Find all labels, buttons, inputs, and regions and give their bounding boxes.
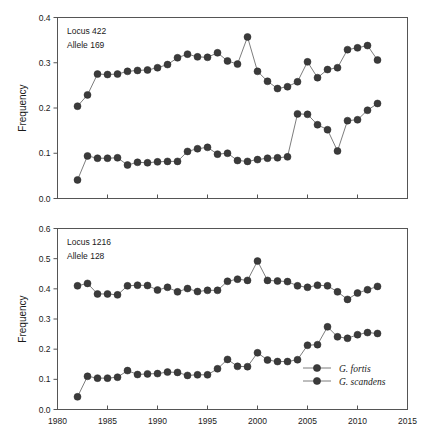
data-point bbox=[174, 54, 181, 61]
data-point bbox=[284, 358, 291, 365]
x-tick-label: 2005 bbox=[298, 416, 317, 426]
series-line bbox=[78, 37, 378, 106]
x-tick-label: 1980 bbox=[48, 416, 67, 426]
data-point bbox=[104, 375, 111, 382]
x-tick-label: 2015 bbox=[398, 416, 417, 426]
y-tick-label: 0.0 bbox=[39, 194, 51, 204]
data-point bbox=[174, 158, 181, 165]
data-point bbox=[184, 51, 191, 58]
legend: G. fortis G. scandens bbox=[303, 364, 386, 387]
data-point bbox=[334, 64, 341, 71]
data-point bbox=[184, 372, 191, 379]
data-point bbox=[74, 393, 81, 400]
data-point bbox=[334, 147, 341, 154]
data-point bbox=[244, 158, 251, 165]
data-point bbox=[254, 156, 261, 163]
top-panel: 0.00.10.20.30.4 Locus 422 Allele 169 Fre… bbox=[17, 13, 408, 204]
data-point bbox=[114, 374, 121, 381]
series-line bbox=[78, 103, 378, 179]
data-point bbox=[84, 152, 91, 159]
data-point bbox=[74, 176, 81, 183]
x-tick-label: 1985 bbox=[98, 416, 117, 426]
data-point bbox=[374, 330, 381, 337]
data-point bbox=[374, 57, 381, 64]
bottom-panel-series-group bbox=[74, 258, 381, 401]
legend-marker-g-scandens bbox=[313, 377, 320, 384]
data-point bbox=[134, 282, 141, 289]
data-point bbox=[294, 356, 301, 363]
x-tick-label: 2000 bbox=[248, 416, 267, 426]
legend-marker-g-fortis bbox=[313, 364, 320, 371]
data-point bbox=[294, 110, 301, 117]
data-point bbox=[294, 282, 301, 289]
data-point bbox=[314, 341, 321, 348]
data-point bbox=[254, 258, 261, 265]
data-point bbox=[344, 117, 351, 124]
y-tick-label: 0.3 bbox=[39, 314, 51, 324]
data-point bbox=[324, 282, 331, 289]
data-point bbox=[224, 356, 231, 363]
data-point bbox=[154, 158, 161, 165]
data-point bbox=[264, 357, 271, 364]
data-point bbox=[204, 371, 211, 378]
data-point bbox=[244, 277, 251, 284]
data-point bbox=[154, 287, 161, 294]
data-point bbox=[144, 370, 151, 377]
series-g-fortis bbox=[74, 258, 381, 303]
top-panel-frame bbox=[58, 18, 408, 199]
data-point bbox=[194, 145, 201, 152]
data-point bbox=[94, 375, 101, 382]
data-point bbox=[214, 287, 221, 294]
data-point bbox=[324, 126, 331, 133]
data-point bbox=[104, 71, 111, 78]
data-point bbox=[164, 158, 171, 165]
data-point bbox=[104, 155, 111, 162]
data-point bbox=[164, 61, 171, 68]
data-point bbox=[104, 290, 111, 297]
data-point bbox=[334, 288, 341, 295]
y-tick-label: 0.5 bbox=[39, 254, 51, 264]
data-point bbox=[334, 333, 341, 340]
data-point bbox=[214, 151, 221, 158]
data-point bbox=[354, 290, 361, 297]
data-point bbox=[204, 54, 211, 61]
legend-label-g-scandens: G. scandens bbox=[339, 377, 386, 387]
data-point bbox=[214, 49, 221, 56]
data-point bbox=[144, 282, 151, 289]
bottom-panel-y-ticks: 0.00.10.20.30.40.50.6 bbox=[39, 224, 58, 415]
top-panel-y-axis-title: Frequency bbox=[17, 84, 28, 131]
data-point bbox=[174, 288, 181, 295]
data-point bbox=[74, 103, 81, 110]
data-point bbox=[304, 284, 311, 291]
y-tick-label: 0.4 bbox=[39, 13, 51, 23]
data-point bbox=[244, 363, 251, 370]
x-tick-label: 1995 bbox=[198, 416, 217, 426]
data-point bbox=[364, 286, 371, 293]
data-point bbox=[324, 66, 331, 73]
data-point bbox=[224, 150, 231, 157]
data-point bbox=[314, 74, 321, 81]
bottom-panel-y-axis-title: Frequency bbox=[17, 295, 28, 342]
data-point bbox=[304, 111, 311, 118]
data-point bbox=[94, 290, 101, 297]
data-point bbox=[284, 153, 291, 160]
data-point bbox=[364, 107, 371, 114]
data-point bbox=[154, 370, 161, 377]
y-tick-label: 0.1 bbox=[39, 148, 51, 158]
data-point bbox=[124, 162, 131, 169]
top-panel-annotation-allele: Allele 169 bbox=[67, 40, 105, 50]
data-point bbox=[154, 64, 161, 71]
data-point bbox=[114, 71, 121, 78]
data-point bbox=[204, 287, 211, 294]
data-point bbox=[124, 68, 131, 75]
data-point bbox=[134, 159, 141, 166]
data-point bbox=[194, 288, 201, 295]
data-point bbox=[184, 148, 191, 155]
series-g-fortis bbox=[74, 33, 381, 109]
y-tick-label: 0.2 bbox=[39, 103, 51, 113]
data-point bbox=[254, 68, 261, 75]
figure-canvas: 0.00.10.20.30.4 Locus 422 Allele 169 Fre… bbox=[0, 0, 430, 437]
bottom-panel: 0.00.10.20.30.40.50.6 Locus 1216 Allele … bbox=[17, 224, 408, 415]
data-point bbox=[134, 67, 141, 74]
data-point bbox=[314, 121, 321, 128]
